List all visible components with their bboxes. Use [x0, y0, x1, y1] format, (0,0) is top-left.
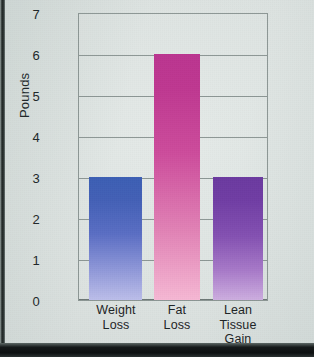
gridline-4: [79, 137, 267, 138]
page-edge-left: [0, 0, 5, 343]
gridline-1: [79, 260, 267, 261]
plot-area: [78, 13, 268, 301]
x-label-lean-tissue-gain: Lean Tissue Gain: [202, 303, 274, 347]
gridline-5: [79, 96, 267, 97]
y-tick-label-3: 3: [14, 171, 40, 186]
chart-screenshot: Pounds 7 6 5 4 3 2 1 0 Weight Loss Fat L…: [0, 0, 314, 357]
x-label-lean-tissue-gain-line-2: Tissue: [202, 318, 274, 333]
y-tick-label-2: 2: [14, 212, 40, 227]
gridline-2: [79, 219, 267, 220]
x-label-lean-tissue-gain-line-1: Lean: [202, 303, 274, 318]
y-tick-label-6: 6: [14, 48, 40, 63]
y-tick-label-0: 0: [14, 294, 40, 309]
y-tick-label-7: 7: [14, 7, 40, 22]
page-edge-bottom: [0, 343, 314, 357]
y-tick-label-5: 5: [14, 89, 40, 104]
y-tick-label-1: 1: [14, 253, 40, 268]
x-axis-baseline: [79, 299, 267, 300]
gridline-6: [79, 55, 267, 56]
y-tick-label-4: 4: [14, 130, 40, 145]
gridline-3: [79, 178, 267, 179]
